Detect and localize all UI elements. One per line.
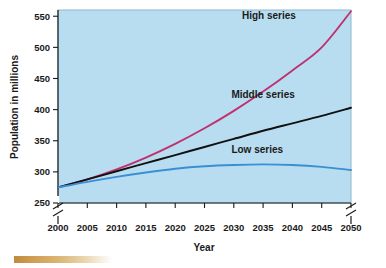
y-tick-label: 350 — [34, 135, 50, 146]
x-tick-label: 2000 — [47, 222, 68, 233]
y-tick-label: 250 — [34, 197, 50, 208]
series-label-high-series: High series — [242, 10, 296, 21]
y-tick-label: 450 — [34, 73, 50, 84]
x-tick-label: 2050 — [340, 222, 361, 233]
x-tick-label: 2015 — [135, 222, 157, 233]
x-axis-ticks: 2000200520102015202020252030203520402045… — [47, 203, 361, 233]
y-tick-label: 500 — [34, 42, 50, 53]
x-axis-title: Year — [193, 242, 214, 253]
population-projection-line-chart: 250300350400450500550 200020052010201520… — [0, 0, 386, 268]
y-axis-ticks: 250300350400450500550 — [34, 11, 58, 209]
decorative-gradient-bar — [14, 256, 112, 263]
y-tick-label: 300 — [34, 166, 50, 177]
x-tick-label: 2010 — [106, 222, 127, 233]
y-tick-label: 550 — [34, 11, 50, 22]
x-tick-label: 2030 — [223, 222, 244, 233]
x-tick-label: 2035 — [253, 222, 275, 233]
figure-container: 250300350400450500550 200020052010201520… — [0, 0, 386, 268]
y-tick-label: 400 — [34, 104, 50, 115]
x-tick-label: 2020 — [165, 222, 186, 233]
x-tick-label: 2005 — [77, 222, 99, 233]
x-tick-label: 2025 — [194, 222, 216, 233]
y-axis-title: Population in millions — [9, 55, 20, 159]
series-label-low-series: Low series — [231, 144, 283, 155]
x-tick-label: 2045 — [311, 222, 333, 233]
x-tick-label: 2040 — [282, 222, 303, 233]
series-label-middle-series: Middle series — [231, 89, 295, 100]
